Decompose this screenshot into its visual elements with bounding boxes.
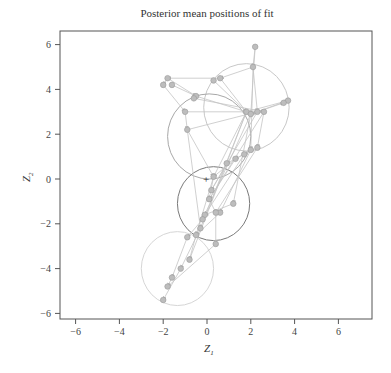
chart-title: Posterior mean positions of fit bbox=[140, 7, 273, 19]
node-point bbox=[217, 75, 223, 81]
node-point bbox=[250, 64, 256, 70]
edge-arrow bbox=[194, 98, 264, 111]
edge-arrow bbox=[187, 130, 200, 229]
node-point bbox=[200, 217, 206, 223]
node-point bbox=[224, 161, 230, 167]
x-tick-label: 4 bbox=[292, 326, 297, 337]
x-tick-label: −2 bbox=[158, 326, 169, 337]
y-tick-label: −6 bbox=[40, 308, 51, 319]
node-point bbox=[281, 100, 287, 106]
node-point bbox=[165, 284, 171, 290]
node-point bbox=[211, 78, 217, 84]
edge-arrow bbox=[220, 67, 253, 78]
node-point bbox=[198, 225, 204, 231]
y-axis-label: Z2 bbox=[20, 172, 35, 182]
x-axis-label: Z1 bbox=[204, 342, 214, 357]
y-tick-label: 0 bbox=[46, 174, 51, 185]
y-tick-label: −4 bbox=[40, 263, 51, 274]
origin-marker: + bbox=[203, 173, 209, 185]
y-tick-label: −2 bbox=[40, 218, 51, 229]
node-point bbox=[184, 127, 190, 133]
plot-area: + bbox=[141, 44, 291, 306]
node-point bbox=[241, 152, 247, 158]
node-point bbox=[193, 232, 199, 238]
edge-arrow bbox=[163, 85, 185, 112]
edge-arrow bbox=[187, 130, 213, 177]
y-tick-label: 6 bbox=[46, 39, 51, 50]
edge-arrow bbox=[172, 85, 196, 96]
node-point bbox=[248, 147, 254, 153]
node-point bbox=[211, 174, 217, 180]
node-point bbox=[169, 82, 175, 88]
node-point bbox=[160, 82, 166, 88]
y-axis: −6−4−20246 bbox=[40, 39, 60, 319]
node-point bbox=[169, 275, 175, 281]
x-tick-label: 2 bbox=[248, 326, 253, 337]
node-point bbox=[209, 187, 215, 193]
node-point bbox=[165, 75, 171, 81]
node-point bbox=[191, 96, 197, 102]
node-point bbox=[233, 156, 239, 162]
node-point bbox=[187, 257, 193, 263]
x-axis: −6−4−20246 bbox=[70, 319, 341, 337]
y-tick-label: 2 bbox=[46, 129, 51, 140]
x-tick-label: 6 bbox=[336, 326, 341, 337]
edge-arrow bbox=[189, 235, 196, 260]
node-point bbox=[213, 241, 219, 247]
node-point bbox=[248, 111, 254, 117]
edge-arrow bbox=[220, 78, 246, 112]
cluster-circle bbox=[141, 232, 213, 306]
node-point bbox=[160, 297, 166, 303]
node-point bbox=[178, 266, 184, 272]
x-tick-label: −6 bbox=[70, 326, 81, 337]
y-tick-label: 4 bbox=[46, 84, 51, 95]
node-point bbox=[255, 109, 261, 115]
chart: Posterior mean positions of fit + −6−4−2… bbox=[0, 0, 391, 373]
edge-arrow bbox=[189, 112, 246, 260]
node-point bbox=[261, 109, 267, 115]
x-tick-label: 0 bbox=[205, 326, 210, 337]
node-point bbox=[206, 196, 212, 202]
x-tick-label: −4 bbox=[114, 326, 125, 337]
node-point bbox=[184, 234, 190, 240]
node-point bbox=[213, 210, 219, 216]
node-point bbox=[255, 145, 261, 151]
node-point bbox=[230, 201, 236, 207]
node-point bbox=[252, 44, 258, 50]
node-point bbox=[182, 109, 188, 115]
